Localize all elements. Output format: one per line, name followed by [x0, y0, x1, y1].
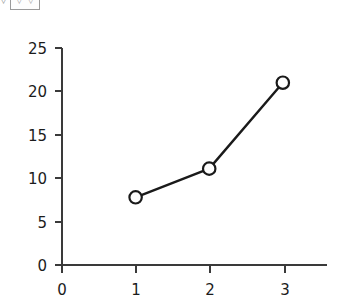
y-tick-label-5: 5	[37, 214, 47, 232]
y-tick-label-10: 10	[28, 170, 47, 188]
y-axis-ticks	[55, 48, 62, 265]
y-tick-label-15: 15	[28, 127, 47, 145]
x-tick-label-3: 3	[280, 281, 290, 299]
x-tick-label-1: 1	[131, 281, 141, 299]
data-point-1	[129, 191, 141, 203]
y-axis-tick-labels: 0 5 10 15 20 25	[28, 40, 47, 275]
line-chart: 0 5 10 15 20 25 0 1 2 3	[0, 0, 338, 307]
y-tick-label-0: 0	[37, 257, 47, 275]
x-tick-label-2: 2	[205, 281, 215, 299]
data-point-markers	[129, 77, 289, 204]
data-series-line	[136, 83, 283, 198]
x-tick-label-0: 0	[57, 281, 67, 299]
screenshot-root: ▿ ▿ ▿	[0, 0, 338, 307]
data-point-3	[277, 77, 289, 89]
chart-canvas: 0 5 10 15 20 25 0 1 2 3	[0, 0, 338, 307]
y-tick-label-25: 25	[28, 40, 47, 58]
x-axis-tick-labels: 0 1 2 3	[57, 281, 290, 299]
x-axis-ticks	[62, 265, 285, 273]
data-point-2	[203, 162, 215, 174]
y-tick-label-20: 20	[28, 83, 47, 101]
